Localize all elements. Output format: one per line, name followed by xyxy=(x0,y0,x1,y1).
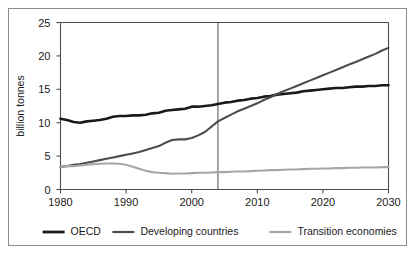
y-tick-label: 0 xyxy=(44,184,50,196)
series-line-developing-countries xyxy=(61,48,389,167)
y-axis-title: billion tonnes xyxy=(14,75,26,136)
x-tick-label: 2020 xyxy=(311,196,335,208)
y-axis-tick-labels: 0510152025 xyxy=(38,17,50,196)
chart-figure: 0510152025 198019902000201020202030 bill… xyxy=(0,0,417,257)
x-tick-label: 2000 xyxy=(179,196,203,208)
y-tick-label: 20 xyxy=(38,50,50,62)
x-tick-label: 1990 xyxy=(114,196,138,208)
legend-label-transition-economies: Transition economies xyxy=(297,225,396,237)
y-tick-label: 5 xyxy=(44,150,50,162)
x-tick-label: 1980 xyxy=(48,196,72,208)
y-axis-tick-marks xyxy=(57,23,61,190)
data-series-group xyxy=(61,48,389,174)
x-tick-label: 2010 xyxy=(245,196,269,208)
y-tick-label: 25 xyxy=(38,17,50,29)
legend-label-oecd: OECD xyxy=(71,225,102,237)
legend-label-developing-countries: Developing countries xyxy=(140,225,238,237)
x-axis-tick-labels: 198019902000201020202030 xyxy=(48,196,400,208)
y-tick-label: 15 xyxy=(38,83,50,95)
x-axis-tick-marks xyxy=(61,190,389,194)
x-tick-label: 2030 xyxy=(376,196,400,208)
y-tick-label: 10 xyxy=(38,117,50,129)
chart-legend: OECDDeveloping countriesTransition econo… xyxy=(43,225,397,237)
series-line-transition-economies xyxy=(61,163,389,173)
line-chart: 0510152025 198019902000201020202030 bill… xyxy=(0,0,417,257)
